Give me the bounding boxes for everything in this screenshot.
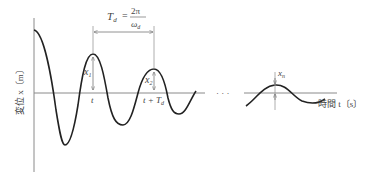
period-equals: = — [122, 10, 128, 21]
time-t-label: t — [91, 95, 94, 105]
period-label: Td — [107, 10, 117, 24]
amplitude-2-label: x2 — [144, 74, 152, 86]
damped-curve — [34, 30, 196, 145]
time-t-plus-td-label: t + Td — [143, 95, 165, 106]
damped-vibration-diagram: · · · Td = 2π ωd x1 t x2 t + Td xn 時間 t〔… — [0, 0, 372, 179]
ellipsis: · · · — [216, 88, 230, 98]
amplitude-n-label: xn — [277, 68, 285, 79]
y-axis-label: 変位 x〔m〕 — [14, 65, 25, 115]
amplitude-1-label: x1 — [83, 66, 91, 78]
damped-curve-tail — [246, 85, 325, 106]
period-numerator: 2π — [131, 6, 141, 16]
x-axis-label: 時間 t〔s〕 — [318, 99, 362, 109]
period-denominator: ωd — [131, 19, 141, 30]
